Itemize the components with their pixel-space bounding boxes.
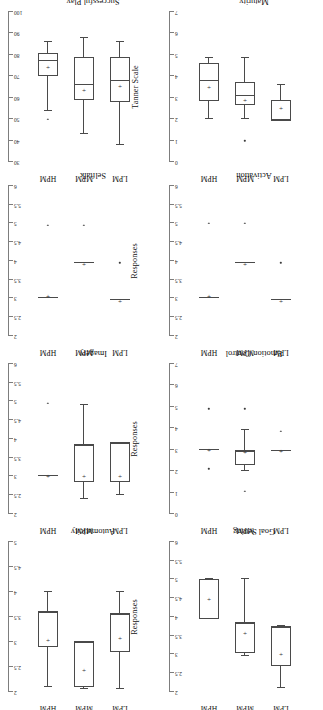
median-line bbox=[74, 641, 94, 642]
group-labels: LPMMPMHPM bbox=[34, 692, 150, 710]
y-axis-tick-label: 2 bbox=[14, 511, 17, 517]
y-axis-tick bbox=[8, 279, 13, 280]
y-axis-tick bbox=[8, 457, 13, 458]
whisker-cap-lower bbox=[80, 498, 88, 499]
y-axis-tick-label: 3 bbox=[175, 447, 178, 453]
y-axis-tick bbox=[8, 566, 13, 567]
boxplot-panel: LPMMPMHPM01234567Responses+++Emotion Con… bbox=[161, 353, 321, 530]
group-label-lpm: LPM bbox=[270, 704, 292, 710]
outlier-point bbox=[244, 491, 246, 493]
whisker-upper bbox=[84, 38, 85, 57]
y-axis-tick-label: 6 bbox=[175, 539, 178, 545]
group-label-lpm: LPM bbox=[109, 348, 131, 357]
mean-marker: + bbox=[279, 297, 283, 304]
y-axis-tick bbox=[8, 54, 13, 55]
y-axis-tick-label: 2.5 bbox=[175, 670, 182, 676]
y-axis-tick-label: 6 bbox=[175, 31, 178, 37]
median-line bbox=[271, 119, 291, 120]
y-axis-tick bbox=[8, 591, 13, 592]
y-axis-line bbox=[8, 186, 9, 336]
y-axis-tick bbox=[8, 541, 13, 542]
whisker-cap-lower bbox=[116, 689, 124, 690]
whisker-cap-lower bbox=[241, 470, 249, 471]
whisker-upper bbox=[48, 592, 49, 612]
mean-marker: + bbox=[279, 446, 283, 453]
y-axis-tick-label: 5 bbox=[14, 399, 17, 405]
outlier-point bbox=[244, 223, 246, 225]
y-axis-tick bbox=[8, 691, 13, 692]
y-axis-tick bbox=[169, 32, 174, 33]
y-axis-tick-label: 2.5 bbox=[175, 314, 182, 320]
whisker-lower bbox=[245, 105, 246, 119]
group-label-lpm: LPM bbox=[109, 704, 131, 710]
y-axis-tick-label: 3 bbox=[14, 639, 17, 645]
median-line bbox=[38, 611, 58, 612]
y-axis-tick bbox=[8, 260, 13, 261]
y-axis-tick bbox=[169, 185, 174, 186]
y-axis-tick-label: 5 bbox=[175, 577, 178, 583]
y-axis-tick-label: 6 bbox=[175, 183, 178, 189]
y-axis-tick-label: 90 bbox=[14, 31, 20, 37]
mean-marker: + bbox=[243, 629, 247, 636]
y-axis-tick-label: 60 bbox=[14, 95, 20, 101]
y-axis-tick bbox=[8, 97, 13, 98]
y-axis-tick bbox=[169, 616, 174, 617]
y-axis-tick bbox=[8, 204, 13, 205]
y-axis-tick bbox=[169, 54, 174, 55]
y-axis-tick-label: 3 bbox=[14, 296, 17, 302]
panel-title: Successful Play bbox=[26, 0, 160, 6]
y-axis-tick-label: 3.5 bbox=[175, 277, 182, 283]
y-axis-tick-label: 5 bbox=[175, 52, 178, 58]
group-labels: LPMMPMHPM bbox=[34, 162, 150, 182]
y-axis-tick-label: 1 bbox=[175, 490, 178, 496]
whisker-cap-upper bbox=[277, 84, 285, 85]
y-axis-tick bbox=[169, 241, 174, 242]
whisker-cap-upper bbox=[241, 430, 249, 431]
figure-root: LPMMPMHPM22.533.544.555.56Responses+++Go… bbox=[0, 0, 323, 710]
whisker-cap-upper bbox=[80, 37, 88, 38]
whisker-lower bbox=[84, 482, 85, 499]
y-axis-tick-label: 40 bbox=[14, 138, 20, 144]
group-label-lpm: LPM bbox=[109, 526, 131, 535]
y-axis-tick-label: 3.5 bbox=[14, 277, 21, 283]
y-axis-tick-label: 4.5 bbox=[14, 417, 21, 423]
mean-marker: + bbox=[46, 291, 50, 298]
group-labels: LPMMPMHPM bbox=[34, 514, 150, 534]
y-axis-tick-label: 2.5 bbox=[14, 314, 21, 320]
group-labels: LPMMPMHPM bbox=[195, 514, 311, 534]
mean-marker: + bbox=[118, 634, 122, 641]
y-axis-tick-label: 7 bbox=[175, 361, 178, 367]
box-iqr bbox=[235, 623, 255, 653]
plot-area: 22.533.544.55Responses+++ bbox=[2, 542, 150, 692]
y-axis-tick bbox=[8, 494, 13, 495]
whisker-cap-upper bbox=[241, 57, 249, 58]
y-axis-tick-label: 2 bbox=[14, 333, 17, 339]
y-axis-tick-label: 2 bbox=[175, 116, 178, 122]
y-axis-tick bbox=[169, 427, 174, 428]
y-axis-tick-label: 5.5 bbox=[14, 380, 21, 386]
mean-marker: + bbox=[243, 259, 247, 266]
plot-area: 01234567Responses+++ bbox=[163, 364, 311, 514]
y-axis-tick bbox=[8, 438, 13, 439]
mean-marker: + bbox=[118, 81, 122, 88]
y-axis-tick bbox=[169, 449, 174, 450]
group-label-hpm: HPM bbox=[198, 348, 220, 357]
y-axis-tick-label: 0 bbox=[175, 511, 178, 517]
whisker-cap-lower bbox=[241, 118, 249, 119]
y-axis-tick-label: 3 bbox=[175, 95, 178, 101]
group-label-hpm: HPM bbox=[37, 174, 59, 183]
whisker-cap-lower bbox=[116, 144, 124, 145]
y-axis-tick-label: 1 bbox=[175, 138, 178, 144]
median-line bbox=[199, 618, 219, 619]
mean-marker: + bbox=[207, 291, 211, 298]
y-axis-tick-label: 0 bbox=[175, 159, 178, 165]
median-line bbox=[235, 622, 255, 623]
whisker-cap-lower bbox=[44, 110, 52, 111]
whisker-cap-lower bbox=[44, 686, 52, 687]
mean-marker: + bbox=[279, 104, 283, 111]
y-axis-tick-label: 80 bbox=[14, 52, 20, 58]
y-axis-tick bbox=[169, 118, 174, 119]
y-axis-tick-label: 4 bbox=[175, 614, 178, 620]
whisker-cap-upper bbox=[116, 591, 124, 592]
mean-marker: + bbox=[118, 297, 122, 304]
